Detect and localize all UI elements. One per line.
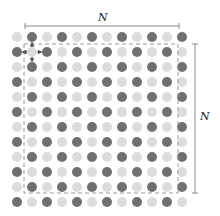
light-site <box>27 107 37 117</box>
light-site <box>102 62 112 72</box>
dark-site <box>42 107 52 117</box>
dark-site <box>177 32 187 42</box>
right-dimension-bracket <box>192 44 198 193</box>
light-site <box>87 167 97 177</box>
light-site <box>132 32 142 42</box>
dark-site <box>87 32 97 42</box>
dark-site <box>132 77 142 87</box>
dark-site <box>132 197 142 207</box>
light-site <box>12 92 22 102</box>
light-site <box>12 32 22 42</box>
light-site <box>117 137 127 147</box>
light-site <box>117 47 127 57</box>
dark-site <box>147 182 157 192</box>
light-site <box>27 137 37 147</box>
dark-site <box>57 92 67 102</box>
light-site <box>42 152 52 162</box>
light-site <box>87 197 97 207</box>
dark-site <box>162 47 172 57</box>
light-site <box>102 182 112 192</box>
light-site <box>87 77 97 87</box>
dark-site <box>162 197 172 207</box>
light-site <box>132 122 142 132</box>
dark-site <box>72 77 82 87</box>
dark-site <box>162 77 172 87</box>
light-site <box>147 107 157 117</box>
light-site <box>117 167 127 177</box>
dark-site <box>117 32 127 42</box>
dark-site <box>57 152 67 162</box>
dark-site <box>102 77 112 87</box>
dark-site <box>12 77 22 87</box>
light-site <box>72 152 82 162</box>
dark-site <box>147 62 157 72</box>
light-site <box>57 137 67 147</box>
dark-site <box>27 122 37 132</box>
dark-site <box>12 197 22 207</box>
light-site <box>12 152 22 162</box>
dark-site <box>132 137 142 147</box>
light-site <box>57 167 67 177</box>
light-site <box>87 107 97 117</box>
dark-site <box>42 137 52 147</box>
dark-site <box>72 47 82 57</box>
light-site <box>87 137 97 147</box>
light-site <box>12 122 22 132</box>
light-site <box>102 92 112 102</box>
light-site <box>57 77 67 87</box>
dark-site <box>147 122 157 132</box>
light-site <box>147 167 157 177</box>
light-site <box>57 47 67 57</box>
light-site <box>42 92 52 102</box>
lattice-diagram <box>0 0 220 216</box>
light-site <box>162 32 172 42</box>
light-site <box>147 137 157 147</box>
dark-site <box>72 107 82 117</box>
top-dimension-label: N <box>98 11 108 24</box>
dark-site <box>12 137 22 147</box>
light-site <box>72 62 82 72</box>
light-site <box>132 182 142 192</box>
dark-site <box>117 62 127 72</box>
dark-site <box>102 47 112 57</box>
light-site <box>162 182 172 192</box>
dark-site <box>27 92 37 102</box>
light-site <box>147 47 157 57</box>
dark-site <box>117 182 127 192</box>
dark-site <box>132 107 142 117</box>
dark-site <box>27 32 37 42</box>
light-site <box>12 182 22 192</box>
light-site <box>117 107 127 117</box>
dark-site <box>87 152 97 162</box>
dark-site <box>102 137 112 147</box>
light-site <box>72 122 82 132</box>
light-site <box>27 77 37 87</box>
dark-site <box>42 167 52 177</box>
dark-site <box>57 122 67 132</box>
light-site <box>27 47 37 57</box>
dark-site <box>57 32 67 42</box>
dark-site <box>12 47 22 57</box>
light-site <box>132 92 142 102</box>
dark-site <box>117 122 127 132</box>
light-site <box>42 182 52 192</box>
light-site <box>117 197 127 207</box>
dark-site <box>87 92 97 102</box>
dark-site <box>57 62 67 72</box>
light-site <box>162 152 172 162</box>
light-site <box>102 122 112 132</box>
light-site <box>72 182 82 192</box>
light-site <box>162 122 172 132</box>
light-site <box>72 92 82 102</box>
light-site <box>102 152 112 162</box>
light-site <box>132 62 142 72</box>
dark-site <box>87 62 97 72</box>
dark-site <box>117 152 127 162</box>
dark-site <box>102 107 112 117</box>
dark-site <box>72 137 82 147</box>
light-site <box>27 197 37 207</box>
dark-site <box>132 47 142 57</box>
dark-site <box>102 197 112 207</box>
dark-site <box>12 107 22 117</box>
light-site <box>87 47 97 57</box>
